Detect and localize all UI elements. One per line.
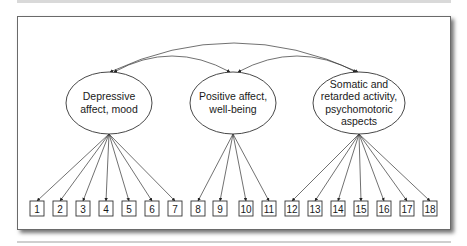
factor-label: Somatic and bbox=[330, 78, 389, 90]
factor-f3: Somatic andretarded activity,psychomotor… bbox=[313, 72, 405, 134]
factor-label: affect, mood bbox=[80, 103, 138, 115]
item-box-12: 12 bbox=[285, 201, 299, 216]
item-label: 15 bbox=[355, 204, 367, 215]
factor-f1: Depressiveaffect, mood bbox=[66, 72, 152, 134]
item-label: 3 bbox=[80, 204, 86, 215]
factor-label: Depressive bbox=[83, 90, 136, 102]
item-box-6: 6 bbox=[145, 201, 159, 216]
factor-label: aspects bbox=[341, 115, 377, 127]
item-box-11: 11 bbox=[262, 201, 276, 216]
item-box-7: 7 bbox=[168, 201, 182, 216]
item-box-9: 9 bbox=[213, 201, 227, 216]
item-box-1: 1 bbox=[30, 201, 44, 216]
item-label: 8 bbox=[195, 204, 201, 215]
loading-arrow bbox=[359, 134, 407, 201]
item-box-15: 15 bbox=[354, 201, 368, 216]
loading-arrow bbox=[315, 134, 359, 201]
factor-loadings bbox=[37, 134, 430, 201]
item-box-13: 13 bbox=[308, 201, 322, 216]
covariance-arrow bbox=[110, 43, 358, 72]
item-label: 16 bbox=[378, 204, 390, 215]
item-label: 9 bbox=[217, 204, 223, 215]
covariance-arrow bbox=[114, 56, 230, 72]
loading-arrow bbox=[60, 134, 109, 201]
item-label: 5 bbox=[126, 204, 132, 215]
covariance-arrow bbox=[238, 56, 356, 72]
item-label: 10 bbox=[240, 204, 252, 215]
factor-label: retarded activity, bbox=[321, 90, 397, 102]
item-box-16: 16 bbox=[377, 201, 391, 216]
factor-f2: Positive affect,well-being bbox=[190, 72, 276, 134]
factor-label: well-being bbox=[208, 103, 256, 115]
loading-arrow bbox=[106, 134, 109, 201]
item-box-2: 2 bbox=[53, 201, 67, 216]
covariance-arcs bbox=[110, 43, 358, 72]
item-label: 7 bbox=[172, 204, 178, 215]
item-box-4: 4 bbox=[99, 201, 113, 216]
loading-arrow bbox=[359, 134, 384, 201]
item-label: 2 bbox=[57, 204, 63, 215]
item-label: 12 bbox=[286, 204, 298, 215]
item-label: 1 bbox=[34, 204, 40, 215]
factor-label: psychomotoric bbox=[325, 103, 393, 115]
item-box-8: 8 bbox=[191, 201, 205, 216]
item-label: 17 bbox=[401, 204, 413, 215]
item-box-3: 3 bbox=[76, 201, 90, 216]
item-label: 18 bbox=[424, 204, 436, 215]
item-label: 13 bbox=[309, 204, 321, 215]
observed-items: 123456789101112131415161718 bbox=[30, 201, 437, 216]
item-box-14: 14 bbox=[331, 201, 345, 216]
loading-arrow bbox=[198, 134, 233, 201]
factor-label: Positive affect, bbox=[199, 90, 267, 102]
item-box-18: 18 bbox=[423, 201, 437, 216]
item-label: 14 bbox=[332, 204, 344, 215]
loading-arrow bbox=[292, 134, 359, 201]
loading-arrow bbox=[233, 134, 269, 201]
item-label: 6 bbox=[149, 204, 155, 215]
loading-arrow bbox=[359, 134, 361, 201]
item-box-17: 17 bbox=[400, 201, 414, 216]
factor-diagram: Depressiveaffect, moodPositive affect,we… bbox=[0, 0, 467, 246]
loading-arrow bbox=[37, 134, 109, 201]
loading-arrow bbox=[109, 134, 152, 201]
item-label: 11 bbox=[264, 204, 275, 215]
item-box-10: 10 bbox=[239, 201, 253, 216]
item-box-5: 5 bbox=[122, 201, 136, 216]
loading-arrow bbox=[220, 134, 233, 201]
loading-arrow bbox=[233, 134, 246, 201]
loading-arrow bbox=[359, 134, 430, 201]
loading-arrow bbox=[83, 134, 109, 201]
latent-factors: Depressiveaffect, moodPositive affect,we… bbox=[66, 72, 405, 134]
item-label: 4 bbox=[103, 204, 109, 215]
